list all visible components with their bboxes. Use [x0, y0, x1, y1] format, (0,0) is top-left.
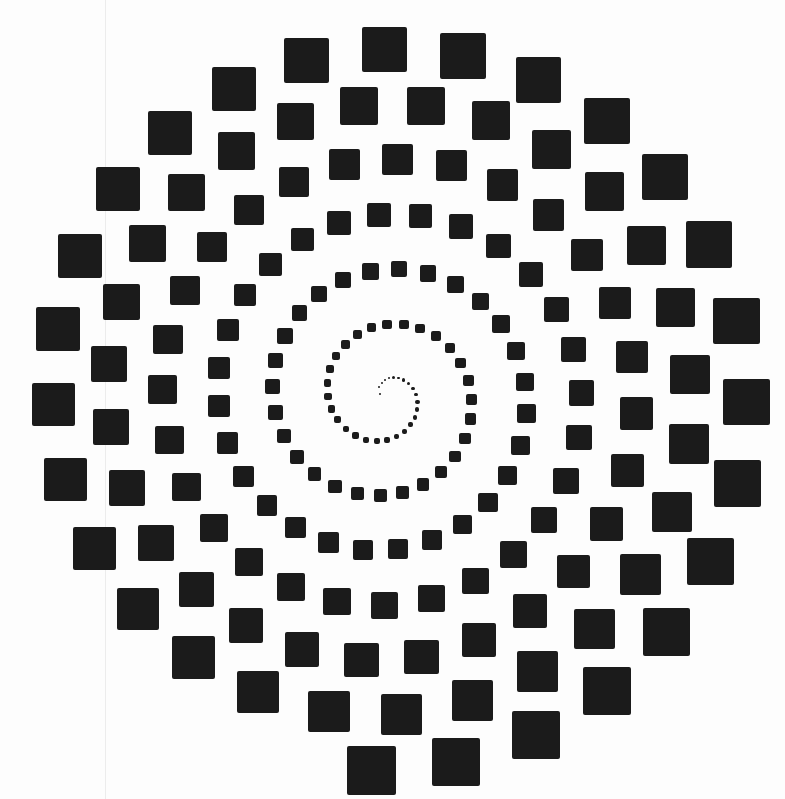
spiral-square	[723, 379, 770, 426]
spiral-square	[197, 232, 227, 262]
spiral-square	[492, 315, 510, 333]
spiral-artwork: Spiral of squares	[0, 0, 785, 799]
spiral-square	[627, 226, 666, 265]
spiral-square	[332, 352, 340, 360]
spiral-square	[268, 405, 283, 420]
spiral-square	[341, 340, 350, 349]
spiral-square	[268, 353, 283, 368]
spiral-square	[459, 433, 471, 445]
spiral-square	[362, 263, 378, 279]
spiral-square	[500, 541, 526, 567]
spiral-square	[335, 272, 351, 288]
spiral-square	[516, 373, 534, 391]
spiral-square	[408, 422, 413, 427]
spiral-square	[179, 572, 214, 607]
spiral-square	[285, 632, 320, 667]
spiral-square	[445, 343, 455, 353]
spiral-square	[277, 573, 305, 601]
spiral-square	[257, 495, 278, 516]
spiral-square	[129, 225, 166, 262]
spiral-square	[620, 397, 653, 430]
spiral-square	[234, 195, 264, 225]
spiral-square	[353, 330, 362, 339]
spiral-square	[217, 432, 239, 454]
spiral-square	[531, 507, 557, 533]
spiral-square	[308, 691, 350, 733]
spiral-square	[611, 454, 644, 487]
spiral-square	[512, 711, 560, 759]
spiral-square	[517, 651, 558, 692]
spiral-square	[642, 154, 688, 200]
spiral-square	[384, 379, 386, 381]
spiral-square	[652, 492, 692, 532]
spiral-square	[353, 540, 373, 560]
spiral-square	[367, 323, 376, 332]
spiral-square	[172, 473, 200, 501]
spiral-square	[234, 284, 257, 307]
spiral-square	[371, 592, 398, 619]
spiral-square	[409, 204, 433, 228]
spiral-square	[292, 305, 308, 321]
spiral-square	[670, 355, 710, 395]
spiral-square	[168, 174, 205, 211]
spiral-square	[381, 382, 383, 384]
spiral-square	[407, 87, 445, 125]
spiral-square	[415, 407, 419, 411]
spiral-square	[388, 539, 408, 559]
spiral-square	[324, 393, 332, 401]
spiral-square	[391, 261, 408, 278]
spiral-square	[452, 680, 493, 721]
spiral-square	[277, 103, 315, 141]
spiral-square	[590, 507, 623, 540]
spiral-square	[362, 27, 407, 72]
spiral-square	[449, 451, 461, 463]
spiral-square	[669, 424, 709, 464]
spiral-square	[58, 234, 102, 278]
spiral-square	[32, 383, 75, 426]
spiral-square	[378, 386, 380, 388]
spiral-square	[91, 346, 127, 382]
spiral-square	[402, 429, 407, 434]
spiral-square	[328, 405, 335, 412]
spiral-square	[498, 466, 517, 485]
spiral-square	[411, 387, 415, 391]
spiral-square	[324, 379, 332, 387]
spiral-square	[138, 525, 173, 560]
spiral-square	[413, 415, 418, 420]
spiral-square	[713, 298, 760, 345]
spiral-square	[208, 357, 230, 379]
spiral-square	[519, 262, 544, 287]
spiral-square	[714, 460, 761, 507]
spiral-square	[352, 432, 358, 438]
spiral-square	[432, 738, 480, 786]
spiral-square	[583, 667, 631, 715]
spiral-square	[478, 493, 497, 512]
spiral-square	[148, 375, 177, 404]
spiral-square	[687, 538, 734, 585]
spiral-square	[585, 172, 624, 211]
spiral-square	[44, 458, 87, 501]
spiral-square	[466, 394, 477, 405]
spiral-square	[200, 514, 228, 542]
spiral-square	[487, 169, 518, 200]
spiral-square	[374, 489, 387, 502]
spiral-square	[511, 436, 530, 455]
spiral-square	[435, 466, 447, 478]
spiral-square	[153, 325, 182, 354]
spiral-square	[36, 307, 80, 351]
spiral-square	[584, 98, 630, 144]
spiral-square	[384, 437, 390, 443]
spiral-square	[392, 376, 395, 379]
spiral-square	[279, 167, 309, 197]
spiral-square	[326, 365, 334, 373]
spiral-square	[235, 548, 263, 576]
spiral-square	[516, 57, 562, 103]
spiral-square	[334, 416, 341, 423]
spiral-square	[397, 377, 400, 380]
spiral-square	[507, 342, 525, 360]
spiral-square	[291, 228, 314, 251]
spiral-square	[347, 746, 396, 795]
spiral-square	[447, 276, 464, 293]
spiral-square	[533, 199, 565, 231]
spiral-square	[463, 375, 474, 386]
